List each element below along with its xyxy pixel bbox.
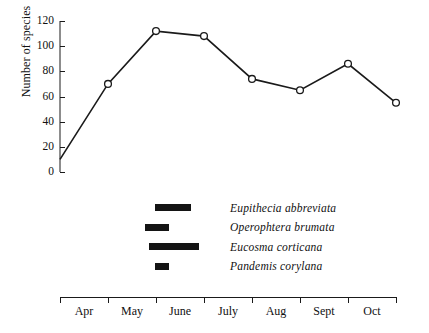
x-tick-mark — [396, 297, 397, 303]
x-tick-mark — [204, 297, 205, 303]
x-tick-mark — [156, 297, 157, 303]
y-tick-mark — [60, 71, 65, 72]
x-tick-mark — [60, 297, 61, 303]
data-point-marker — [297, 87, 304, 94]
species-name-label: Pandemis corylana — [230, 260, 323, 272]
y-tick-label: 80 — [24, 66, 54, 78]
y-tick-label: 20 — [24, 141, 54, 153]
species-period-bar — [155, 204, 191, 211]
x-tick-mark — [252, 297, 253, 303]
y-tick-mark — [60, 46, 65, 47]
x-axis — [60, 297, 396, 298]
y-tick-label: 60 — [24, 91, 54, 103]
y-tick-label: 120 — [24, 15, 54, 27]
species-name-label: Operophtera brumata — [230, 221, 335, 233]
species-name-label: Eucosma corticana — [230, 241, 323, 253]
y-tick-mark — [60, 21, 65, 22]
series-line — [60, 31, 396, 159]
data-point-marker — [249, 76, 256, 83]
x-tick-mark — [108, 297, 109, 303]
y-tick-mark — [60, 122, 65, 123]
y-tick-label: 0 — [24, 166, 54, 178]
x-tick-label: Apr — [75, 304, 94, 319]
species-name-label: Eupithecia abbreviata — [230, 202, 336, 214]
y-tick-label: 100 — [24, 40, 54, 52]
species-period-bar — [149, 243, 199, 250]
x-tick-label: May — [121, 304, 143, 319]
figure-canvas: Number of species 020406080100120 Eupith… — [0, 0, 429, 333]
data-point-marker — [393, 99, 400, 106]
x-tick-label: Oct — [363, 304, 380, 319]
data-point-marker — [153, 28, 160, 35]
y-tick-mark — [60, 147, 65, 148]
x-tick-label: Sept — [313, 304, 334, 319]
x-tick-label: Aug — [266, 304, 287, 319]
y-tick-mark — [60, 172, 65, 173]
y-tick-mark — [60, 97, 65, 98]
species-period-bar — [145, 224, 169, 231]
x-tick-label: July — [218, 304, 238, 319]
x-tick-mark — [348, 297, 349, 303]
data-point-marker — [105, 81, 112, 88]
line-chart — [0, 0, 429, 185]
x-tick-mark — [300, 297, 301, 303]
data-point-marker — [201, 33, 208, 40]
species-period-bar — [155, 263, 169, 270]
x-tick-label: June — [169, 304, 191, 319]
data-point-marker — [345, 60, 352, 67]
y-tick-label: 40 — [24, 116, 54, 128]
